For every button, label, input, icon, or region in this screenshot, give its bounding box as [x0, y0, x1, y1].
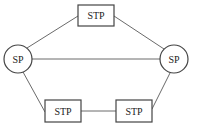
node-stp-bottom-left: STP	[45, 100, 81, 122]
network-diagram: SP SP STP STP STP	[0, 0, 198, 133]
node-label: STP	[54, 106, 72, 117]
node-stp-top: STP	[78, 5, 114, 26]
node-sp-right: SP	[160, 45, 188, 73]
node-label: SP	[168, 54, 180, 65]
node-label: STP	[87, 10, 105, 21]
edge-sp-left-to-stp-top	[27, 16, 78, 48]
edge-sp-left-to-stp-bottom-left	[23, 72, 45, 112]
node-label: STP	[125, 106, 143, 117]
edge-stp-top-to-sp-right	[114, 16, 164, 49]
node-label: SP	[12, 54, 24, 65]
node-sp-left: SP	[4, 45, 32, 73]
edge-stp-bottom-right-to-sp-right	[152, 73, 170, 109]
node-stp-bottom-right: STP	[116, 100, 152, 122]
